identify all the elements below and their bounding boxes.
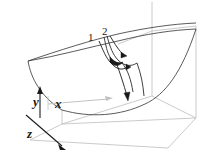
surface-edge-bottom-left-skirt (62, 104, 145, 115)
trajectory-2-arrowhead-upper (121, 52, 127, 58)
surface-edge-bottom-right-sweep (145, 29, 196, 104)
axis-label-z: z (27, 127, 32, 140)
bounding-box-wireframe (30, 2, 196, 148)
fold-edge-tail-right (137, 63, 144, 96)
annotation-label-2: 2 (102, 26, 108, 37)
trajectory-2-path-upper (110, 36, 124, 55)
annotation-label-1: 1 (88, 32, 94, 43)
axis-label-x: x (55, 97, 62, 110)
box-edge-bottom-front (62, 118, 196, 124)
axis-label-y: y (33, 95, 39, 108)
box-edge-front-right (168, 118, 196, 148)
surface-edge-top-front (28, 29, 196, 61)
box-edge-bottom-back-right (152, 96, 196, 118)
trajectory-1-arrowhead (126, 64, 131, 70)
box-edge-front-bottom (30, 140, 168, 148)
arrow-down-left-icon (58, 144, 66, 150)
figure-container: y x z 1 2 (0, 0, 205, 159)
arrow-right-icon (105, 96, 113, 101)
fold-surface-outline (28, 23, 196, 115)
trajectory-2 (110, 36, 124, 55)
trajectory-jump-arrowhead (124, 92, 130, 101)
